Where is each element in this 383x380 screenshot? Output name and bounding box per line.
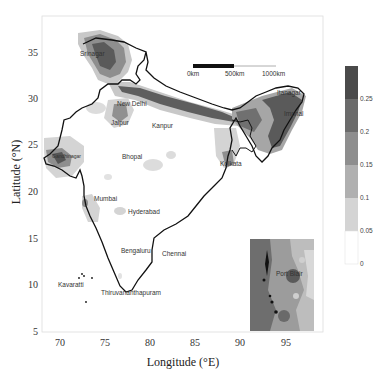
x-tick-label: 85 (190, 337, 200, 348)
city-label: Bhopal (122, 153, 143, 161)
y-tick-label: 10 (28, 279, 38, 290)
y-tick-label: 35 (28, 47, 38, 58)
scale-label-0: 0km (187, 70, 199, 77)
scale-label-500: 500km (225, 70, 245, 77)
x-tick-label: 80 (145, 337, 155, 348)
x-axis: 70 75 80 85 90 95 (55, 337, 291, 348)
y-axis-title: Latitude (°N) (9, 140, 23, 204)
y-axis: 35 30 25 20 15 10 5 (28, 47, 38, 337)
scale-label-1000: 1000km (262, 70, 285, 77)
city-label: Kanpur (152, 122, 174, 130)
city-label: Jaipur (111, 119, 130, 127)
city-label: Chennai (162, 250, 186, 257)
colorbar-tick: 0.25 (360, 95, 373, 102)
city-label: Port Blair (276, 270, 304, 277)
colorbar-tick: 0.1 (360, 194, 369, 201)
x-tick-label: 95 (281, 337, 291, 348)
y-tick-label: 30 (28, 93, 38, 104)
colorbar-tick: 0 (360, 260, 364, 267)
city-label: Hyderabad (128, 208, 160, 216)
y-tick-label: 20 (28, 186, 38, 197)
city-label: Bengaluru (121, 247, 151, 255)
city-label: Itanagar (277, 89, 302, 97)
x-tick-label: 90 (235, 337, 245, 348)
city-label: Srinagar (80, 50, 105, 58)
colorbar-tick: 0.05 (360, 227, 373, 234)
colorbar-ticks: 0.25 0.2 0.15 0.1 0.05 0 (360, 95, 373, 267)
city-label: New Delhi (117, 100, 147, 107)
city-label: Thiruvananthapuram (101, 289, 161, 297)
y-tick-label: 15 (28, 233, 38, 244)
india-map-figure: 0km 500km 1000km Srinagar New Delhi Jaip… (0, 0, 383, 380)
x-axis-title: Longitude (°E) (147, 355, 219, 369)
city-label: Kolkata (220, 160, 242, 167)
colorbar (345, 66, 358, 264)
y-tick-label: 25 (28, 139, 38, 150)
colorbar-tick: 0.2 (360, 128, 369, 135)
city-label: Kavaratti (58, 281, 84, 288)
city-label: Gandhinagar (52, 153, 81, 159)
x-tick-label: 75 (100, 337, 110, 348)
city-label: Mumbai (94, 195, 117, 202)
andaman-inset (250, 239, 314, 331)
y-tick-label: 5 (33, 326, 38, 337)
city-label: Imphal (284, 110, 304, 118)
x-tick-label: 70 (55, 337, 65, 348)
colorbar-tick: 0.15 (360, 161, 373, 168)
